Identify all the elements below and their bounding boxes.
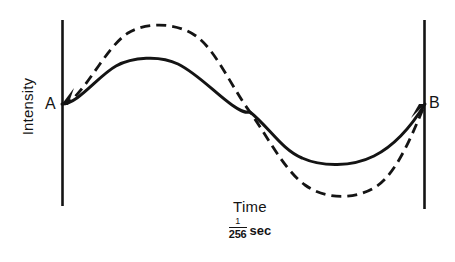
fraction-denominator: 256	[229, 229, 247, 240]
unit-fraction: 1 256	[229, 217, 247, 240]
unit-suffix: sec	[250, 224, 272, 237]
x-axis-caption: Time 1 256 sec	[175, 199, 325, 241]
point-b-label: B	[429, 95, 440, 111]
y-axis-label: Intensity	[19, 52, 36, 162]
x-axis-unit: 1 256 sec	[175, 218, 325, 241]
waveform-figure: Intensity A B Time 1 256 sec	[0, 0, 455, 262]
solid-waveform-curve	[62, 58, 425, 164]
x-axis-label: Time	[175, 199, 325, 216]
point-a-label: A	[45, 96, 56, 112]
fraction-numerator: 1	[229, 217, 247, 227]
